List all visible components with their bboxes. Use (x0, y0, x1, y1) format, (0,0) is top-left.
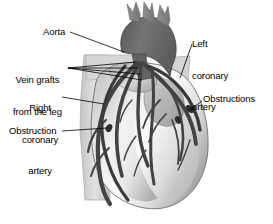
label-right-coronary-line1: Right (22, 103, 58, 114)
label-left-coronary-line1: Left (192, 39, 228, 50)
label-right-coronary-artery: Right coronary artery (22, 82, 58, 198)
heart-bypass-figure: Aorta Vein grafts from the leg Right cor… (0, 0, 273, 224)
label-left-coronary-line2: coronary (192, 71, 228, 82)
label-obstruction: Obstruction (9, 126, 56, 137)
label-right-coronary-line3: artery (22, 166, 58, 177)
label-left-coronary-artery: Left coronary artery (192, 18, 228, 134)
label-obstructions: Obstructions (203, 94, 255, 105)
label-aorta: Aorta (43, 27, 65, 38)
